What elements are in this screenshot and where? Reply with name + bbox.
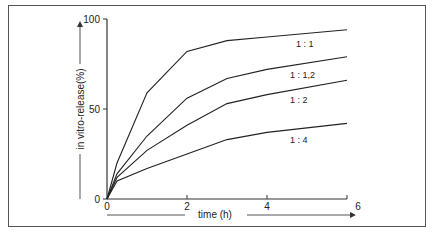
y-tick-0: 0 xyxy=(94,194,100,205)
label-1-1: 1 : 1 xyxy=(296,39,314,49)
y-tick-100: 100 xyxy=(83,14,100,25)
arrow-right-icon xyxy=(350,212,356,218)
x-axis-label: time (h) xyxy=(198,209,232,220)
arrow-up-icon xyxy=(77,21,83,27)
y-axis-label: in vitro-release(%) xyxy=(75,68,86,149)
x-tick-6: 6 xyxy=(355,201,361,212)
label-1-1-2: 1 : 1,2 xyxy=(290,70,315,80)
series-line-3 xyxy=(107,123,347,199)
y-tick-50: 50 xyxy=(89,104,101,115)
x-tick-2: 2 xyxy=(184,201,190,212)
series-line-0 xyxy=(107,30,347,199)
label-1-4: 1 : 4 xyxy=(290,135,308,145)
x-tick-4: 4 xyxy=(264,201,270,212)
label-1-2: 1 : 2 xyxy=(290,95,308,105)
x-tick-0: 0 xyxy=(104,201,110,212)
release-chart: 100 50 0 0 2 4 6 time (h) in vitro-relea… xyxy=(0,0,435,234)
